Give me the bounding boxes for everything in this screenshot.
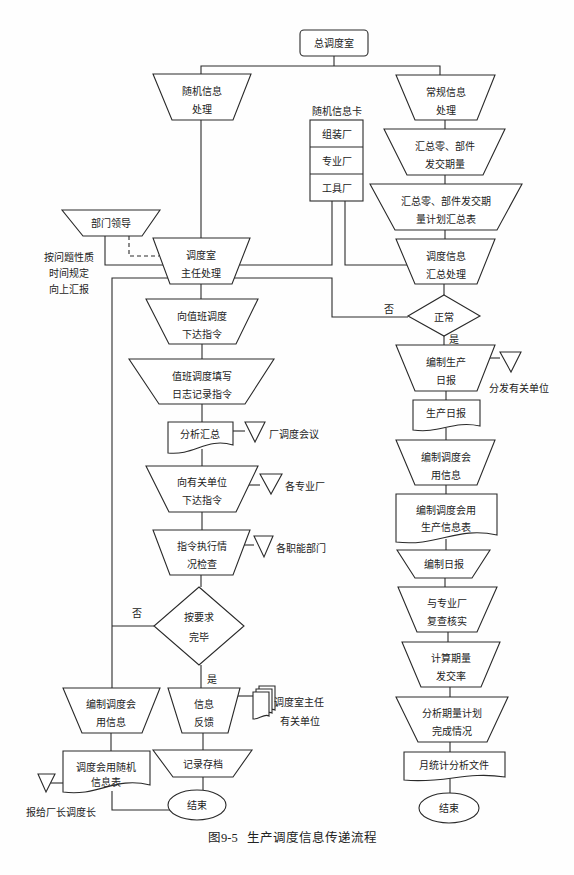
report-note: 按问题性质 时间规定 向上汇报 [44, 251, 94, 295]
target-label: 有关单位 [280, 715, 320, 727]
node-monthly-report: 月统计分析文件 [404, 752, 505, 781]
note-line: 时间规定 [49, 267, 89, 279]
node-label: 总调度室 [314, 37, 354, 49]
node-label-line1: 编制生产 [426, 356, 466, 368]
node-label: 正常 [434, 311, 454, 323]
node-random-table: 调度会用随机 信息表 报给厂长调度长 [26, 751, 150, 818]
node-label-line2: 发交率 [436, 670, 466, 682]
node-meeting-info-left: 编制调度会 用信息 [63, 688, 160, 733]
node-label-line1: 值班调度填写 [172, 370, 232, 382]
card-title: 随机信息卡 [312, 105, 362, 117]
decision-diamond [154, 587, 244, 665]
node-label-line2: 完成情况 [432, 725, 472, 737]
node-label-line1: 计算期量 [431, 652, 471, 664]
node-regular-info: 常规信息 处理 [396, 75, 495, 120]
node-label-line1: 与专业厂 [427, 597, 467, 609]
node-label-line2: 量计划汇总表 [416, 213, 476, 225]
note-line: 按问题性质 [44, 251, 94, 263]
node-label: 编制日报 [424, 558, 464, 570]
target-label: 各专业厂 [285, 480, 325, 492]
node-label: 分析汇总 [180, 428, 220, 440]
node-dept-leader: 部门领导 [62, 210, 160, 236]
branch-yes-label: 是 [449, 334, 459, 345]
node-end-left: 结束 [168, 790, 226, 820]
node-director: 调度室 主任处理 [153, 238, 250, 284]
node-label-line1: 编制调度会 [86, 698, 136, 710]
node-analysis: 分析汇总 厂调度会议 [168, 422, 319, 453]
node-label: 生产日报 [426, 407, 466, 419]
node-label-line1: 指令执行情 [177, 540, 227, 552]
node-production-table: 编制调度会用 生产信息表 [396, 494, 497, 543]
node-summary-qty: 汇总零、部件 发交期量 [384, 129, 505, 175]
node-random-info: 随机信息 处理 [153, 74, 251, 120]
node-label-line2: 用信息 [96, 716, 126, 728]
document-shape [396, 494, 497, 543]
node-label-line2: 处理 [436, 105, 456, 116]
target-label: 各职能部门 [276, 542, 326, 554]
node-label-line1: 按要求 [184, 611, 214, 623]
node-label-line1: 调度会用随机 [76, 761, 136, 773]
target-label: 调度室主任 [274, 696, 324, 708]
connector-table-to-end [112, 791, 170, 810]
card-row: 工具厂 [322, 183, 352, 194]
caption-number: 图9-5 [208, 831, 238, 845]
node-label: 结束 [187, 799, 207, 811]
node-label-line2: 反馈 [194, 716, 214, 728]
node-label-line1: 编制调度会 [421, 451, 471, 463]
node-random-card: 随机信息卡 组装厂 专业厂 工具厂 [310, 105, 363, 202]
flowchart-figure: 总调度室 随机信息 处理 常规信息 处理 随机信息卡 组装厂 专业厂 工具厂 汇… [0, 0, 574, 875]
flowchart-svg: 总调度室 随机信息 处理 常规信息 处理 随机信息卡 组装厂 专业厂 工具厂 汇… [0, 0, 574, 875]
node-label-line1: 向值班调度 [177, 310, 227, 322]
multi-document-icon [253, 686, 275, 719]
node-meeting-info-right: 编制调度会 用信息 [396, 440, 495, 485]
node-label-line2: 信息表 [91, 776, 121, 788]
branch-yes-label: 是 [207, 674, 217, 685]
connector-card-to-director [240, 201, 332, 265]
target-label: 厂调度会议 [269, 428, 319, 440]
figure-caption: 图9-5 生产调度信息传递流程 [208, 830, 377, 845]
card-row: 组装厂 [322, 128, 352, 140]
target-label: 分发有关单位 [489, 382, 549, 394]
node-label-line2: 下达指令 [182, 328, 222, 340]
node-daily-report: 生产日报 [413, 400, 480, 431]
storage-triangle-icon [245, 422, 265, 442]
node-label-line2: 处理 [192, 104, 212, 115]
note-line: 向上汇报 [49, 283, 89, 295]
node-label-line1: 调度信息 [426, 250, 466, 262]
node-verify: 与专业厂 复查核实 [398, 587, 497, 632]
connector-normal-no [234, 278, 408, 317]
node-label-line1: 向有关单位 [177, 476, 227, 488]
node-label-line2: 况检查 [187, 558, 217, 570]
node-duty-log: 值班调度填写 日志记录指令 [129, 359, 274, 404]
node-label-line2: 发交期量 [425, 158, 465, 170]
node-label-line2: 主任处理 [181, 267, 221, 279]
branch-no-label: 否 [384, 304, 394, 315]
node-label-line2: 生产信息表 [421, 521, 471, 533]
node-archive: 记录存档 [153, 750, 252, 777]
node-dispatch-summary: 调度信息 汇总处理 [396, 239, 495, 284]
storage-triangle-icon [260, 474, 282, 494]
node-feedback: 信息 反馈 调度室主任 有关单位 [168, 686, 324, 733]
node-issue-to-units: 向有关单位 下达指令 各专业厂 [146, 466, 325, 512]
node-label-line1: 随机信息 [182, 85, 222, 97]
node-label-line1: 信息 [194, 698, 214, 710]
node-label-line1: 分析期量计划 [422, 707, 482, 719]
node-label-line2: 完毕 [189, 631, 209, 643]
node-label-line1: 编制调度会用 [416, 504, 476, 516]
node-summary-table: 汇总零、部件发交期 量计划汇总表 [370, 184, 522, 230]
node-label-line2: 下达指令 [182, 494, 222, 506]
node-daily-report-compile: 编制生产 日报 分发有关单位 [396, 345, 549, 394]
card-row: 专业厂 [322, 155, 352, 167]
target-label: 报给厂长调度长 [26, 806, 96, 818]
node-analyze-plan: 分析期量计划 完成情况 [396, 697, 508, 742]
node-label-line2: 日志记录指令 [172, 388, 232, 400]
node-complete-decision: 按要求 完毕 否 是 [132, 587, 244, 685]
node-label: 结束 [439, 802, 459, 814]
node-exec-check: 指令执行情 况检查 各职能部门 [153, 530, 326, 575]
node-normal-decision: 正常 否 是 [384, 295, 480, 345]
node-label-line2: 复查核实 [427, 615, 467, 627]
node-label-line1: 常规信息 [426, 86, 466, 98]
node-end-right: 结束 [419, 793, 479, 823]
branch-no-label: 否 [132, 608, 142, 619]
node-calc-rate: 计算期量 发交率 [402, 642, 500, 687]
